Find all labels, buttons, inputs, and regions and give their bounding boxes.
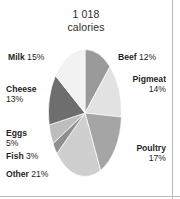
slice-label-fish: Fish 3% xyxy=(6,151,38,161)
chart-title: 1 018 calories xyxy=(0,8,172,33)
slice-label-eggs-percent: 5% xyxy=(6,138,27,148)
slice-label-poultry-percent: 17% xyxy=(112,153,166,163)
slice-label-pigmeat-percent: 14% xyxy=(112,84,166,94)
chart-title-unit: calories xyxy=(0,21,172,34)
calories-pie-figure: 1 018 calories Milk 15% Beef 12% Pigmeat… xyxy=(0,0,180,199)
slice-label-fish-percent: 3% xyxy=(26,151,38,161)
slice-label-beef-name: Beef xyxy=(118,52,137,62)
slice-label-beef-percent: 12% xyxy=(139,52,156,62)
slice-label-fish-name: Fish xyxy=(6,151,24,161)
slice-label-cheese: Cheese 13% xyxy=(6,84,37,104)
chart-title-value: 1 018 xyxy=(0,8,172,21)
right-rule-divider xyxy=(172,0,173,199)
slice-label-cheese-name: Cheese xyxy=(6,84,37,94)
slice-label-poultry-name: Poultry xyxy=(112,143,166,153)
slice-label-cheese-percent: 13% xyxy=(6,94,37,104)
slice-label-pigmeat-name: Pigmeat xyxy=(112,74,166,84)
slice-label-pigmeat: Pigmeat 14% xyxy=(112,74,166,94)
slice-label-milk: Milk 15% xyxy=(8,52,44,62)
slice-label-poultry: Poultry 17% xyxy=(112,143,166,163)
pie-chart-svg xyxy=(48,49,122,177)
pie-chart xyxy=(48,49,122,177)
slice-label-eggs-name: Eggs xyxy=(6,128,27,138)
pie-slice-group xyxy=(49,50,122,177)
slice-label-other: Other 21% xyxy=(6,169,49,179)
bottom-rule-divider xyxy=(0,196,180,197)
slice-label-beef: Beef 12% xyxy=(118,52,156,62)
slice-label-milk-percent: 15% xyxy=(27,52,44,62)
slice-label-milk-name: Milk xyxy=(8,52,25,62)
slice-label-other-percent: 21% xyxy=(31,169,48,179)
slice-label-other-name: Other xyxy=(6,169,29,179)
slice-label-eggs: Eggs 5% xyxy=(6,128,27,148)
